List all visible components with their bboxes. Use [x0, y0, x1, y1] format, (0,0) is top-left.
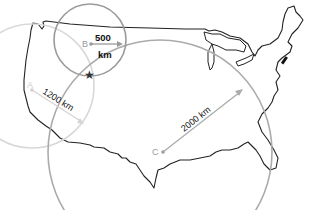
station-c-distance-label: 2000 km	[179, 104, 212, 133]
station-c-label: C	[152, 147, 159, 157]
lake-michigan	[208, 44, 214, 70]
station-a-label: A	[27, 80, 33, 90]
station-b-distance-value: 500	[95, 32, 111, 43]
great-lakes	[204, 32, 246, 52]
us-map-triangulation: A 1200 km B 500 km C 2000 km ★	[0, 0, 313, 210]
lake-erie	[236, 54, 254, 66]
epicenter-star-icon: ★	[84, 68, 95, 82]
station-b-label: B	[82, 39, 88, 49]
station-b-distance-unit: km	[98, 49, 112, 60]
station-c-radius-arrow	[163, 92, 240, 152]
